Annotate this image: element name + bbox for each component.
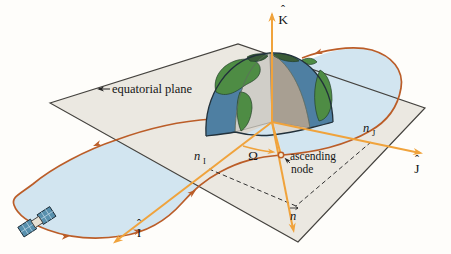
j-axis-hat: ˆ [415,153,419,167]
equatorial-plane-label: equatorial plane [112,82,193,96]
n-i-subscript: I [203,156,206,166]
ascending-node-label-line2: node [291,163,313,175]
k-axis-hat: ˆ [281,3,285,17]
orbit-diagram: equatorial plane K ˆ I ˆ J ˆ Ω ascending… [0,0,451,254]
figure-canvas: equatorial plane K ˆ I ˆ J ˆ Ω ascending… [0,0,451,254]
n-j-label: n [363,121,369,135]
n-i-label: n [194,149,200,163]
omega-label: Ω [248,148,258,163]
n-vector-label: n [290,209,296,223]
ascending-node-marker [278,152,283,157]
i-axis-hat: ˆ [137,217,141,231]
ascending-node-label-line1: ascending [290,150,336,163]
